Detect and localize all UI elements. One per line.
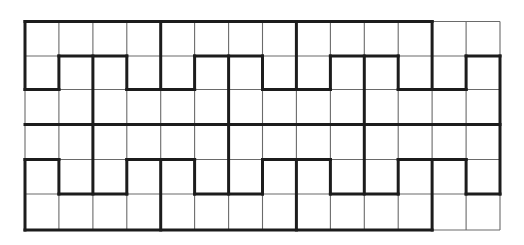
grid-diagram (0, 0, 524, 245)
